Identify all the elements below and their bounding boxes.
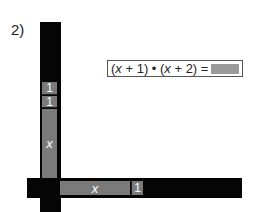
vertical-segment-one: 1 xyxy=(42,96,57,108)
vertical-segment-one: 1 xyxy=(42,82,57,95)
equation-part: + 2) = xyxy=(171,61,209,76)
vertical-segment-x: x xyxy=(42,109,57,178)
answer-field[interactable] xyxy=(211,64,239,74)
horizontal-segment-one: 1 xyxy=(131,181,143,195)
equation-part: + 1) • ( xyxy=(122,61,164,76)
horizontal-segment-x: x xyxy=(60,181,130,195)
problem-number: 2) xyxy=(11,21,24,38)
equation-box: (x + 1) • (x + 2) = xyxy=(107,60,243,77)
